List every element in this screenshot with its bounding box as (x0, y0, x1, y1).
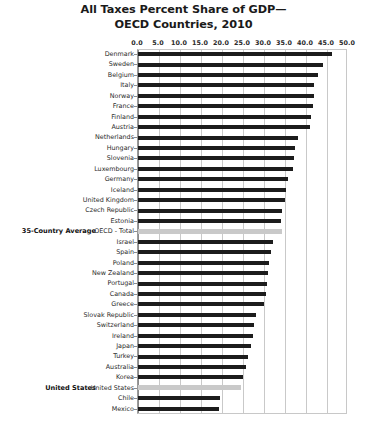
x-tick-label: 10.0 (171, 39, 187, 47)
category-label: Austria (36, 122, 134, 132)
axis-tickmark (134, 158, 137, 159)
bar-row: Slovak Republic (0, 310, 367, 320)
category-label: Greece (36, 299, 134, 309)
axis-tickmark (134, 169, 137, 170)
category-label: Germany (36, 174, 134, 184)
bar (138, 334, 253, 338)
category-label: Spain (36, 247, 134, 257)
bar (138, 219, 281, 223)
chart-title: All Taxes Percent Share of GDP— OECD Cou… (0, 3, 367, 32)
chart-title-line-2: OECD Countries, 2010 (0, 18, 367, 33)
x-axis-tick-labels: 0.05.010.015.020.025.030.035.040.045.050… (0, 39, 367, 49)
bar (138, 261, 269, 265)
x-tick-label: 50.0 (339, 39, 355, 47)
bar (138, 146, 295, 150)
axis-tickmark (134, 356, 137, 357)
bar-row: Iceland (0, 185, 367, 195)
bar-row: New Zealand (0, 268, 367, 278)
bar-row: Austria (0, 122, 367, 132)
category-label: Poland (36, 258, 134, 268)
bar (138, 115, 311, 119)
bar-row: Poland (0, 258, 367, 268)
axis-tickmark (134, 96, 137, 97)
axis-tickmark (134, 148, 137, 149)
axis-tickmark (134, 75, 137, 76)
axis-tickmark (134, 263, 137, 264)
axis-tickmark (134, 54, 137, 55)
bar-row: Australia (0, 362, 367, 372)
bar (138, 136, 298, 140)
bar (138, 104, 313, 108)
x-tick-label: 0.0 (131, 39, 142, 47)
axis-tickmark (134, 252, 137, 253)
bar (138, 323, 254, 327)
category-label: United Kingdom (36, 195, 134, 205)
x-tick-label: 45.0 (318, 39, 334, 47)
bar-row: France (0, 101, 367, 111)
category-label: Netherlands (36, 132, 134, 142)
axis-tickmark (134, 85, 137, 86)
bar-highlighted (138, 229, 282, 234)
bar (138, 375, 243, 379)
bar (138, 271, 268, 275)
axis-tickmark (134, 325, 137, 326)
axis-tickmark (134, 106, 137, 107)
category-label: Slovenia (36, 153, 134, 163)
bar-row: Hungary (0, 143, 367, 153)
axis-tickmark (134, 117, 137, 118)
bar-row: United StatesUnited States (0, 383, 367, 393)
axis-tickmark (134, 304, 137, 305)
bar (138, 292, 266, 296)
axis-tickmark (134, 179, 137, 180)
bar-row: Italy (0, 80, 367, 90)
bar-row: Sweden (0, 59, 367, 69)
bar-row: Estonia (0, 216, 367, 226)
bar-row: Greece (0, 299, 367, 309)
bar (138, 83, 314, 87)
category-label: Finland (36, 112, 134, 122)
chart-title-line-1: All Taxes Percent Share of GDP— (0, 3, 367, 18)
category-label: Japan (36, 341, 134, 351)
axis-tickmark (134, 388, 137, 389)
bar (138, 94, 314, 98)
bar-row: Ireland (0, 331, 367, 341)
axis-tickmark (134, 283, 137, 284)
x-tick-label: 5.0 (152, 39, 163, 47)
bar-row: Mexico (0, 404, 367, 414)
category-label: Sweden (36, 59, 134, 69)
bar (138, 250, 271, 254)
category-label: Chile (36, 393, 134, 403)
bar-row: Switzerland (0, 320, 367, 330)
bar-row: United Kingdom (0, 195, 367, 205)
axis-tickmark (134, 315, 137, 316)
category-label: OECD - Total (36, 226, 134, 236)
bar (138, 209, 282, 213)
axis-tickmark (134, 231, 137, 232)
bar (138, 73, 318, 77)
x-tick-label: 40.0 (297, 39, 313, 47)
chart-container: All Taxes Percent Share of GDP— OECD Cou… (0, 0, 367, 421)
axis-tickmark (134, 64, 137, 65)
axis-tickmark (134, 398, 137, 399)
axis-tickmark (134, 221, 137, 222)
axis-tickmark (134, 346, 137, 347)
bar-row: 35-Country AverageOECD - Total (0, 226, 367, 236)
category-label: New Zealand (36, 268, 134, 278)
axis-tickmark (134, 273, 137, 274)
axis-tickmark (134, 137, 137, 138)
bar (138, 177, 288, 181)
category-label: Australia (36, 362, 134, 372)
bar-row: Finland (0, 112, 367, 122)
category-label: Israel (36, 237, 134, 247)
category-label: Luxembourg (36, 164, 134, 174)
axis-tickmark (134, 210, 137, 211)
bar-row: Netherlands (0, 132, 367, 142)
bar (138, 167, 293, 171)
bar-row: Spain (0, 247, 367, 257)
axis-tickmark (134, 409, 137, 410)
bar (138, 240, 273, 244)
bar-row: Belgium (0, 70, 367, 80)
bar-row: Portugal (0, 278, 367, 288)
axis-tickmark (134, 367, 137, 368)
category-label: Norway (36, 91, 134, 101)
